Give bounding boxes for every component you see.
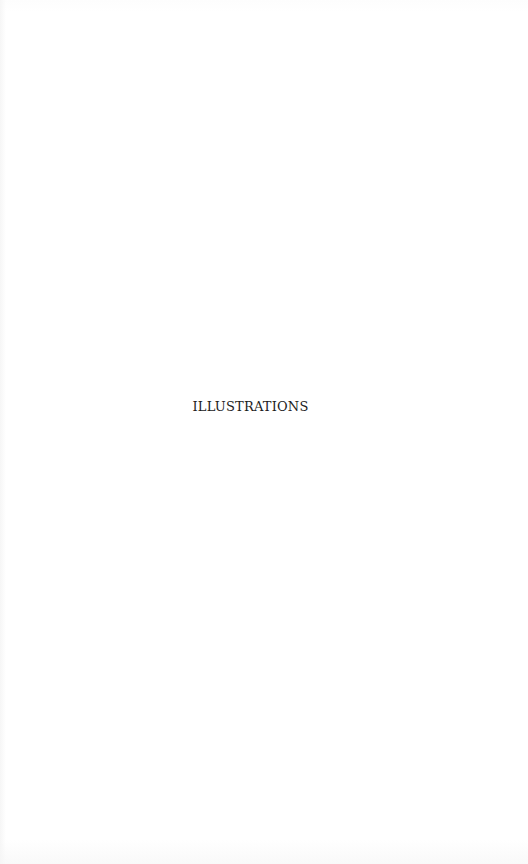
page-edge-shadow <box>0 0 6 864</box>
book-page: ILLUSTRATIONS <box>0 0 528 864</box>
section-heading: ILLUSTRATIONS <box>0 398 501 416</box>
